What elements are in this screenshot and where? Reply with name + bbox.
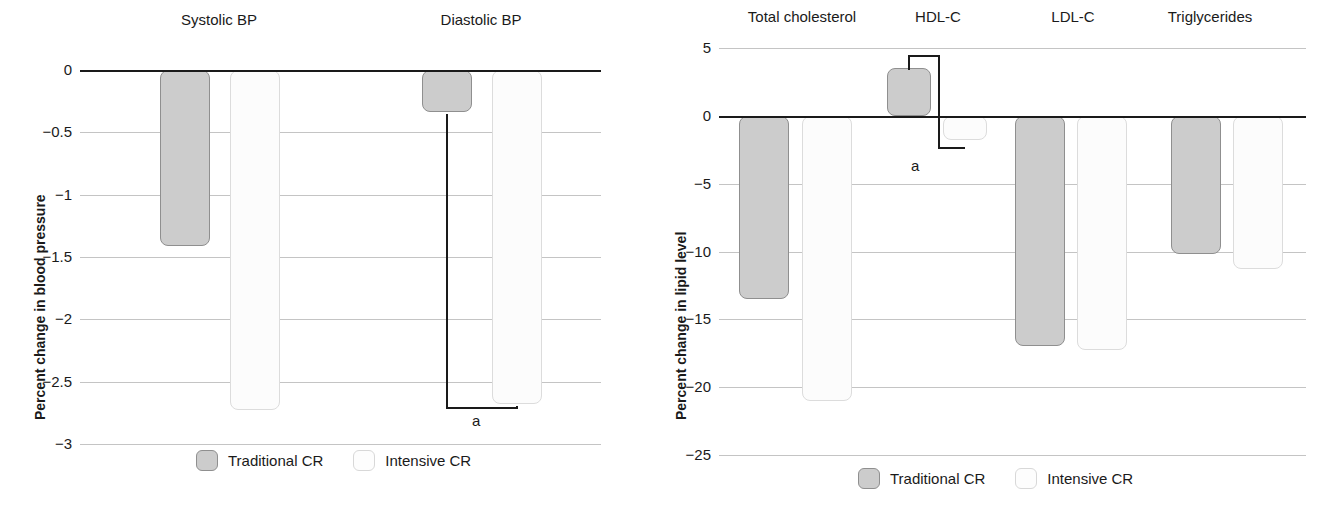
legend-label-traditional: Traditional CR [228,452,323,469]
y-tick-label-right-2: −5 [661,175,711,192]
bar-triglycerides-traditional [1171,116,1221,254]
category-label-diastolic-bp: Diastolic BP [401,11,561,28]
gridline-0 [719,116,1306,118]
y-tick-label-right-4: −15 [661,310,711,327]
category-label-triglycerides: Triglycerides [1120,8,1300,25]
legend-item-traditional-left[interactable]: Traditional CR [196,450,323,471]
gridline-5 [719,48,1306,49]
y-tick-label-left-3: −1.5 [20,248,72,265]
y-tick-label-right-3: −10 [661,243,711,260]
y-tick-label-right-0: 5 [661,39,711,56]
y-tick-label-left-5: −2.5 [20,373,72,390]
gridline-0 [80,70,601,72]
legend-swatch-intensive-icon [353,450,375,471]
legend-item-traditional-right[interactable]: Traditional CR [858,468,985,489]
y-tick-label-left-4: −2 [20,310,72,327]
gridline--3 [80,444,601,445]
significance-label-left: a [472,412,480,429]
y-tick-label-right-1: 0 [661,107,711,124]
bar-ldl-c-traditional [1015,116,1065,347]
y-tick-label-left-1: −0.5 [20,123,72,140]
chart-panel-lipid-level: Percent change in lipid level [661,0,1322,517]
y-tick-label-right-5: −20 [661,378,711,395]
legend-label-intensive: Intensive CR [1047,470,1133,487]
bar-diastolic-traditional [422,70,472,112]
legend-right: Traditional CR Intensive CR [858,468,1133,489]
y-tick-label-right-6: −25 [661,446,711,463]
chart-panel-blood-pressure: Percent change in blood pressure [0,0,661,517]
legend-swatch-traditional-icon [196,450,218,471]
y-tick-label-left-6: −3 [20,435,72,452]
legend-label-intensive: Intensive CR [385,452,471,469]
y-tick-label-left-2: −1 [20,186,72,203]
legend-item-intensive-right[interactable]: Intensive CR [1015,468,1133,489]
legend-swatch-traditional-icon [858,468,880,489]
legend-item-intensive-left[interactable]: Intensive CR [353,450,471,471]
bar-diastolic-intensive [492,70,542,404]
legend-swatch-intensive-icon [1015,468,1037,489]
bar-total-cholesterol-intensive [802,116,852,401]
plot-area-left [80,70,601,444]
bar-systolic-intensive [230,70,280,410]
legend-label-traditional: Traditional CR [890,470,985,487]
bar-ldl-c-intensive [1077,116,1127,351]
bar-hdl-c-intensive [943,116,987,140]
plot-area-right [719,48,1306,455]
bar-systolic-traditional [160,70,210,246]
bar-triglycerides-intensive [1233,116,1283,269]
bar-total-cholesterol-traditional [739,116,789,299]
legend-left: Traditional CR Intensive CR [196,450,471,471]
significance-label-right: a [911,157,919,174]
bar-hdl-c-traditional [887,68,931,116]
figure-root: Percent change in blood pressure [0,0,1322,517]
gridline--25 [719,455,1306,456]
category-label-systolic-bp: Systolic BP [139,11,299,28]
y-tick-label-left-0: 0 [20,61,72,78]
